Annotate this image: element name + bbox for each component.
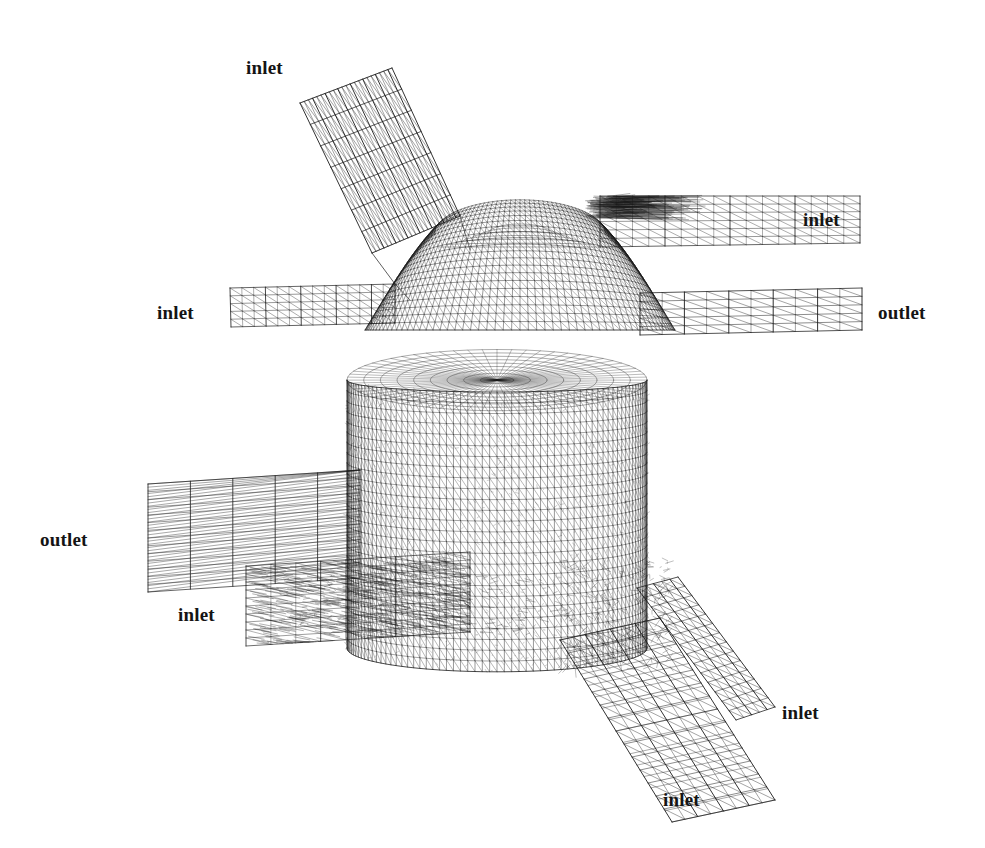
bottom-panel-mesh — [148, 380, 775, 822]
label-bottom-outlet-left: outlet — [40, 530, 88, 549]
label-bottom-inlet-right: inlet — [782, 703, 819, 722]
top-panel-mesh — [230, 68, 862, 335]
mesh-figure: inletinletinletoutletoutletinletinletinl… — [0, 0, 985, 848]
label-bottom-inlet-bottom: inlet — [663, 790, 700, 809]
bottom-inlet-left-duct — [246, 552, 470, 646]
bottom-cylinder-top-cap — [347, 350, 647, 411]
label-top-inlet-right: inlet — [803, 210, 840, 229]
label-top-outlet-right: outlet — [878, 303, 926, 322]
label-top-inlet-left: inlet — [157, 303, 194, 322]
label-bottom-inlet-left: inlet — [178, 605, 215, 624]
label-top-inlet-angled: inlet — [246, 58, 283, 77]
mesh-drawing — [0, 0, 985, 848]
